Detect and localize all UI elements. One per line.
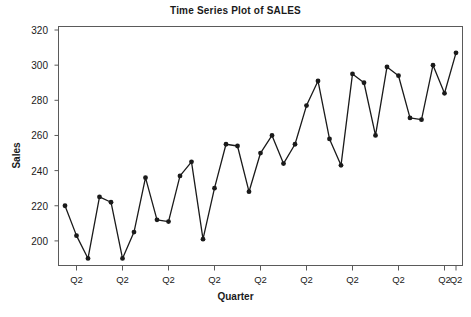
data-point <box>86 256 91 261</box>
data-point <box>155 217 160 222</box>
x-tick-marks <box>77 266 457 271</box>
data-point <box>362 80 367 85</box>
plot-frame <box>59 27 463 266</box>
time-series-chart: Time Series Plot of SALES Sales Quarter … <box>0 0 471 317</box>
data-point <box>408 115 413 120</box>
data-point <box>270 133 275 138</box>
data-point <box>258 151 263 156</box>
data-point <box>189 159 194 164</box>
data-point <box>350 72 355 77</box>
data-point <box>281 161 286 166</box>
data-point <box>396 73 401 78</box>
data-point <box>224 142 229 147</box>
data-point <box>316 79 321 84</box>
data-point <box>385 65 390 70</box>
plot-area <box>0 0 471 317</box>
series-line <box>65 53 456 259</box>
data-point <box>201 237 206 242</box>
data-point <box>339 163 344 168</box>
data-point <box>166 219 171 224</box>
data-point <box>120 256 125 261</box>
data-point <box>109 200 114 205</box>
data-point <box>178 173 183 178</box>
data-point <box>97 195 102 200</box>
data-point <box>442 91 447 96</box>
data-point <box>143 175 148 180</box>
data-point <box>212 186 217 191</box>
data-point <box>419 117 424 122</box>
data-point <box>454 50 459 55</box>
series-markers <box>63 50 459 260</box>
data-point <box>74 233 79 238</box>
data-point <box>247 189 252 194</box>
data-point <box>304 103 309 108</box>
data-point <box>63 203 68 208</box>
data-point <box>132 230 137 235</box>
data-point <box>235 144 240 149</box>
data-point <box>293 142 298 147</box>
data-point <box>373 133 378 138</box>
data-point <box>431 63 436 68</box>
y-tick-marks <box>55 30 59 241</box>
data-point <box>327 137 332 142</box>
